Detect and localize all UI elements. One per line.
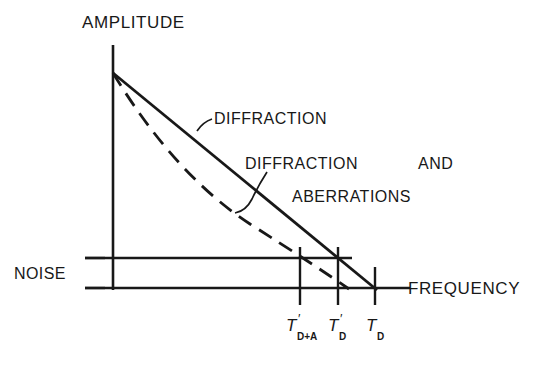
noise-label: NOISE [14, 265, 66, 282]
diffraction-leader-line [197, 119, 212, 131]
diffraction-aberrations-curve [113, 73, 349, 289]
aberrations-label-line1-diffraction: DIFFRACTION [245, 155, 358, 172]
figure-canvas: AMPLITUDE FREQUENCY NOISE DIFFRACTION DI… [0, 0, 554, 365]
tau-subscript-2: D [339, 331, 346, 342]
tau-subscript-1: D+A [297, 331, 317, 342]
tau-label-prime-d: T ′ D [328, 311, 346, 342]
aberrations-label-line1-and: AND [418, 155, 453, 172]
diffraction-label: DIFFRACTION [214, 110, 327, 127]
tau-subscript-3: D [377, 331, 384, 342]
mtf-diagram: AMPLITUDE FREQUENCY NOISE DIFFRACTION DI… [0, 0, 554, 365]
x-axis-title: FREQUENCY [408, 279, 520, 298]
tau-label-d-plus-a: T ′ D+A [286, 311, 317, 342]
tau-prime-2: ′ [340, 311, 343, 326]
aberrations-label-line2: ABERRATIONS [292, 188, 411, 205]
y-axis-title: AMPLITUDE [82, 13, 185, 32]
tau-label-d: T D [366, 316, 384, 342]
tau-prime-1: ′ [298, 311, 301, 326]
